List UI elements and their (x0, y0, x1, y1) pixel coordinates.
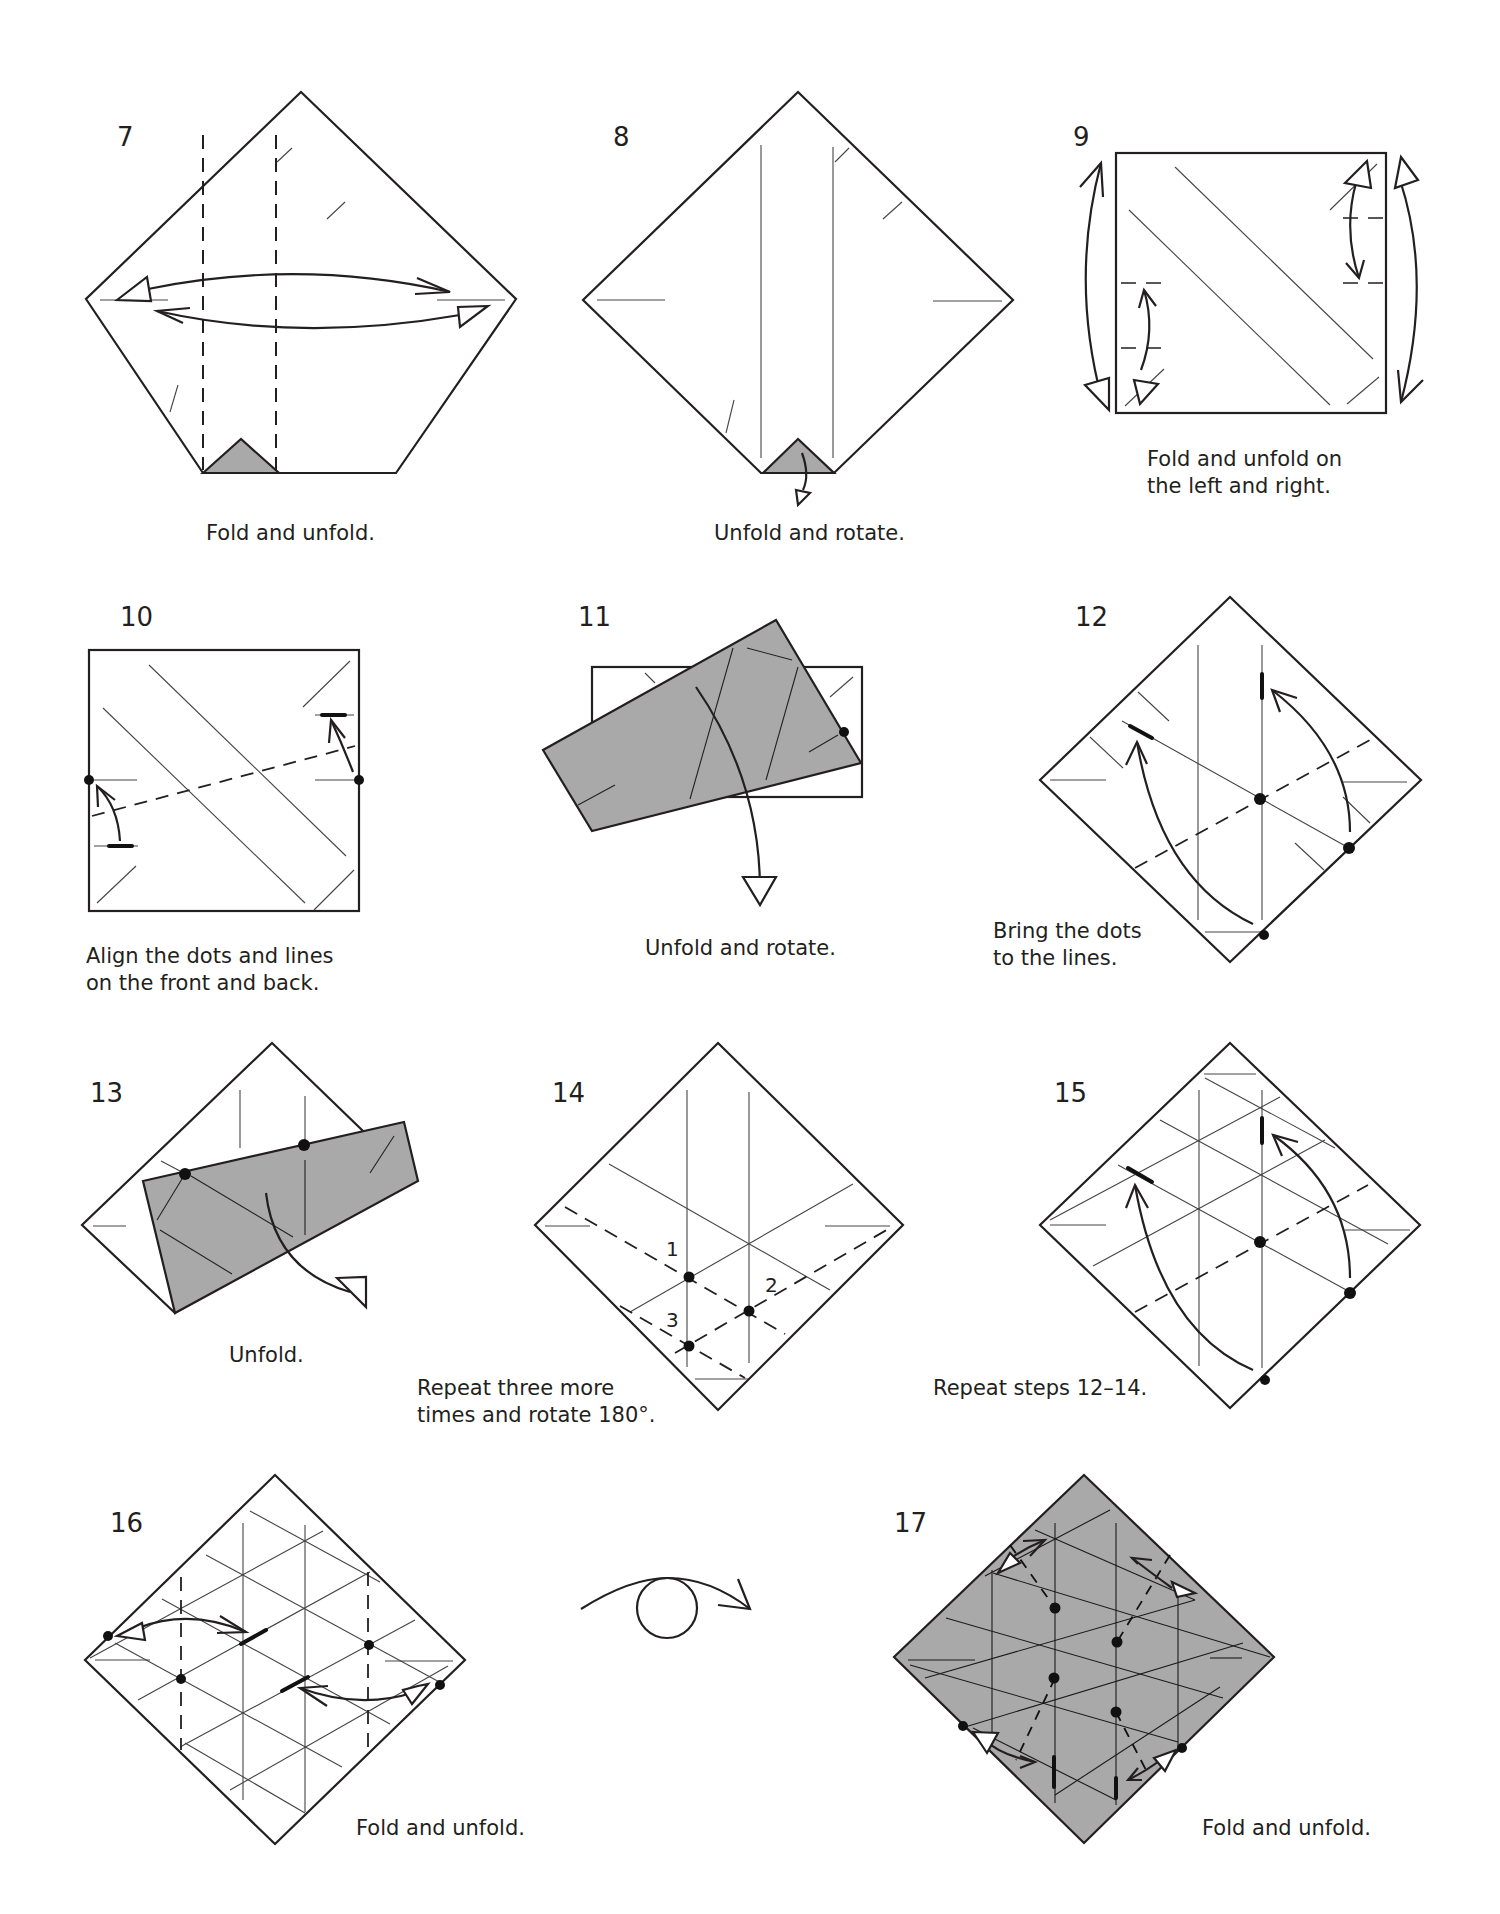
step-15-panel: 15 Repeat steps 12–14. (920, 1030, 1440, 1450)
step-number: 16 (110, 1508, 143, 1538)
step-8-diagram (560, 80, 1040, 560)
step-number: 15 (1054, 1078, 1087, 1108)
step-11-panel: 11 Unfold and rotate. (520, 580, 1000, 1020)
step-7-panel: 7 Fold and unfold. (60, 80, 540, 560)
step-17-panel: 17 Fold and unfold. (880, 1460, 1400, 1900)
step-7-diagram (60, 80, 540, 560)
point-label-2: 2 (765, 1273, 778, 1297)
step-number: 8 (613, 122, 630, 152)
step-number: 13 (90, 1078, 123, 1108)
step-10-panel: 10 Align the dots and lines on the front… (60, 580, 540, 1020)
step-caption: Repeat three more times and rotate 180°. (417, 1375, 655, 1429)
step-caption: Fold and unfold. (206, 520, 375, 547)
step-8-panel: 8 Unfold and rotate. (560, 80, 1040, 560)
step-caption: Bring the dots to the lines. (993, 918, 1142, 972)
step-caption: Unfold and rotate. (714, 520, 905, 547)
step-number: 11 (578, 602, 611, 632)
step-number: 14 (552, 1078, 585, 1108)
step-number: 17 (894, 1508, 927, 1538)
step-12-panel: 12 Bring the dots to the lines. (980, 580, 1440, 1020)
step-caption: Align the dots and lines on the front an… (86, 943, 334, 997)
step-number: 7 (117, 122, 134, 152)
step-caption: Fold and unfold. (356, 1815, 525, 1842)
point-label-1: 1 (666, 1237, 679, 1261)
step-caption: Repeat steps 12–14. (933, 1375, 1147, 1402)
step-number: 10 (120, 602, 153, 632)
step-16-panel: 16 Fold and unfold. (60, 1460, 580, 1900)
turn-over-symbol (560, 1460, 900, 1700)
turn-over-icon (560, 1460, 900, 1700)
step-9-panel: 9 Fold and unfold on the left and right. (1040, 80, 1500, 560)
point-label-3: 3 (666, 1308, 679, 1332)
step-caption: Fold and unfold on the left and right. (1147, 446, 1342, 500)
step-14-panel: 1 2 3 14 Repeat three more times and rot… (400, 1030, 940, 1450)
step-number: 9 (1073, 122, 1090, 152)
step-caption: Unfold. (229, 1342, 304, 1369)
step-caption: Fold and unfold. (1202, 1815, 1371, 1842)
step-caption: Unfold and rotate. (645, 935, 836, 962)
step-number: 12 (1075, 602, 1108, 632)
